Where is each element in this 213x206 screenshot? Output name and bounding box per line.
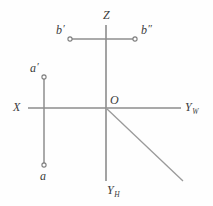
point-marker-a-front bbox=[42, 75, 46, 79]
origin-label: O bbox=[110, 94, 119, 106]
point-label-a-front-letter: a bbox=[30, 61, 36, 75]
point-label-b-front-letter: b bbox=[56, 23, 62, 37]
x-axis-label: X bbox=[13, 101, 20, 113]
point-label-b-side: b″ bbox=[141, 24, 152, 36]
yw-axis-letter: Y bbox=[185, 100, 192, 114]
point-marker-b-side bbox=[133, 37, 137, 41]
point-label-a-front: a′ bbox=[30, 62, 39, 74]
point-label-b-side-letter: b bbox=[141, 23, 147, 37]
point-label-b-front: b′ bbox=[56, 24, 65, 36]
projection-diagram-svg bbox=[0, 0, 213, 206]
point-label-a-front-prime: ′ bbox=[37, 60, 40, 72]
point-label-a-top: a bbox=[40, 170, 46, 182]
yh-axis-letter: Y bbox=[107, 183, 114, 197]
yw-axis-subscript: W bbox=[192, 107, 198, 116]
diagram-canvas: Z X YW YH O b′ b″ a′ a bbox=[0, 0, 213, 206]
yh-axis-subscript: H bbox=[114, 190, 119, 199]
yh-axis-label: YH bbox=[107, 184, 119, 196]
point-label-b-front-prime: ′ bbox=[63, 22, 66, 34]
point-label-b-side-prime: ″ bbox=[148, 22, 153, 34]
diagonal-bisector-ray bbox=[106, 108, 183, 181]
z-axis-label: Z bbox=[103, 9, 110, 21]
yw-axis-label: YW bbox=[185, 101, 198, 113]
point-marker-a-top bbox=[42, 163, 46, 167]
point-marker-b-front bbox=[68, 37, 72, 41]
